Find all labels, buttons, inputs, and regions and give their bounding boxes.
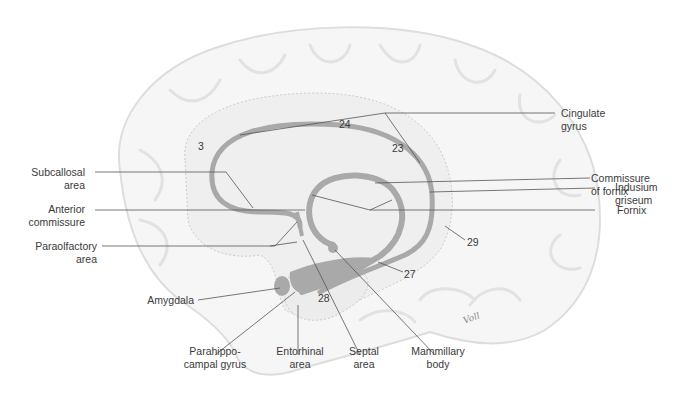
label-line: area [31, 179, 85, 192]
brodmann-28: 28 [318, 292, 330, 304]
label-parahippocampal-gyrus: Parahippo- campal gyrus [183, 345, 247, 371]
brain-illustration [0, 0, 680, 401]
label-entorhinal-area: Entorhinal area [272, 345, 328, 371]
label-cingulate-gyrus: Cingulate gyrus [561, 107, 605, 133]
label-line: Amygdala [147, 294, 194, 307]
label-line: Indusium [615, 181, 658, 194]
label-fornix: Fornix [617, 204, 646, 217]
amygdala-shape [274, 276, 290, 296]
label-line: area [344, 358, 384, 371]
label-mammillary-body: Mammillary body [407, 345, 469, 371]
label-line: area [35, 253, 97, 266]
label-septal-area: Septal area [344, 345, 384, 371]
label-line: body [407, 358, 469, 371]
label-line: Cingulate [561, 107, 605, 120]
label-line: Subcallosal [31, 166, 85, 179]
label-line: Fornix [617, 204, 646, 217]
limbic-system-diagram: 3 24 23 29 27 28 Voll Cingulate gyrus Co… [0, 0, 680, 401]
label-subcallosal-area: Subcallosal area [31, 166, 85, 192]
label-line: commissure [28, 216, 85, 229]
label-line: Mammillary [407, 345, 469, 358]
brodmann-23: 23 [392, 142, 404, 154]
label-line: Paraolfactory [35, 240, 97, 253]
label-line: gyrus [561, 120, 605, 133]
label-line: campal gyrus [183, 358, 247, 371]
label-line: Anterior [28, 203, 85, 216]
label-line: Entorhinal [272, 345, 328, 358]
brodmann-24: 24 [339, 118, 351, 130]
label-line: Septal [344, 345, 384, 358]
label-amygdala: Amygdala [147, 294, 194, 307]
brodmann-27: 27 [404, 268, 416, 280]
brodmann-29: 29 [467, 236, 479, 248]
label-line: area [272, 358, 328, 371]
label-paraolfactory-area: Paraolfactory area [35, 240, 97, 266]
label-anterior-commissure: Anterior commissure [28, 203, 85, 229]
label-line: Parahippo- [183, 345, 247, 358]
brodmann-3: 3 [198, 140, 204, 152]
